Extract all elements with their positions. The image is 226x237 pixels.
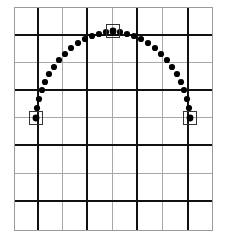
trajectory-dot <box>82 36 88 42</box>
launch-point-marker-dot <box>33 115 40 122</box>
landing-point-marker-dot <box>187 115 194 122</box>
trajectory-dot <box>56 57 62 63</box>
trajectory-dot <box>174 71 180 77</box>
trajectory-dot <box>138 36 144 42</box>
trajectory-dot <box>178 79 184 85</box>
trajectory-dot <box>46 71 52 77</box>
trajectory-dot <box>36 96 42 102</box>
trajectory-dot <box>62 51 68 57</box>
apex-marker-dot <box>110 28 117 35</box>
plot-area <box>0 0 226 237</box>
figure-canvas: Projectile trajectory <box>0 0 226 237</box>
trajectory-dot <box>96 31 102 37</box>
trajectory-dot <box>184 96 190 102</box>
trajectory-dot <box>158 51 164 57</box>
trajectory-dot <box>169 64 175 70</box>
trajectory-dot <box>152 45 158 51</box>
trajectory-dot <box>186 105 192 111</box>
trajectory-dot <box>39 87 45 93</box>
trajectory-dot <box>51 64 57 70</box>
trajectory-dot <box>164 57 170 63</box>
trajectory-dot <box>124 31 130 37</box>
trajectory-dot <box>68 45 74 51</box>
trajectory-dot <box>145 40 151 46</box>
trajectory-dot <box>34 105 40 111</box>
trajectory-dot <box>131 33 137 39</box>
trajectory-dot <box>89 33 95 39</box>
trajectory-dot <box>181 87 187 93</box>
trajectory-dot <box>75 40 81 46</box>
trajectory-dot <box>42 79 48 85</box>
trajectory-plot <box>0 0 226 237</box>
